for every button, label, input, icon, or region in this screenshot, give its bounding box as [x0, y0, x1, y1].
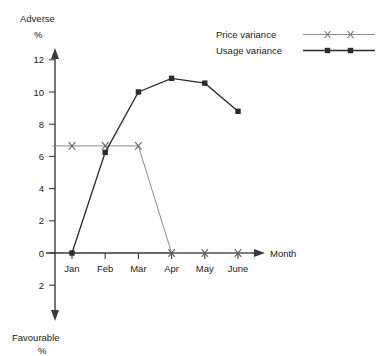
- data-point-marker: [169, 76, 174, 81]
- axis-bottom-unit-label: %: [38, 345, 47, 356]
- data-point-marker: [103, 150, 108, 155]
- x-tick-label-feb: Feb: [97, 263, 113, 274]
- legend-swatch-usage-variance: [303, 48, 375, 53]
- data-series-layer: [52, 76, 252, 257]
- y-tick-label: 10: [33, 87, 44, 98]
- series-line-usage-variance: [72, 78, 238, 253]
- y-tick-label: 8: [39, 119, 44, 130]
- variance-line-chart: 1210864202 JanFebMarAprMayJune Adverse %…: [0, 0, 385, 356]
- y-tick-label: 12: [33, 54, 44, 65]
- x-tick-label-apr: Apr: [164, 263, 179, 274]
- x-axis-ticks: JanFebMarAprMayJune: [64, 253, 248, 274]
- y-tick-label: 6: [39, 151, 44, 162]
- chart-legend: Price variance Usage variance: [216, 29, 375, 56]
- x-axis-title: Month: [270, 248, 296, 259]
- y-tick-label: 2: [39, 280, 44, 291]
- x-axis-right-arrow-icon: [254, 249, 265, 257]
- series-usage-variance: [69, 76, 240, 256]
- y-axis-ticks: 1210864202: [33, 54, 55, 290]
- x-tick-label-june: June: [228, 263, 249, 274]
- chart-canvas: 1210864202 JanFebMarAprMayJune Adverse %…: [0, 0, 385, 356]
- legend-item-label-usage-variance: Usage variance: [216, 45, 282, 56]
- y-tick-label: 4: [39, 183, 44, 194]
- legend-swatch-price-variance: [303, 31, 375, 38]
- x-tick-label-may: May: [196, 263, 214, 274]
- axis-top-unit-label: %: [34, 29, 43, 40]
- data-point-marker: [69, 250, 74, 255]
- axis-top-label: Adverse: [20, 13, 55, 24]
- legend-item-label-price-variance: Price variance: [216, 29, 276, 40]
- axis-group: [46, 48, 265, 321]
- y-axis-up-arrow-icon: [51, 48, 59, 59]
- axis-bottom-label: Favourable: [12, 332, 60, 343]
- x-tick-label-mar: Mar: [130, 263, 146, 274]
- data-point-marker: [202, 80, 207, 85]
- series-price-variance: [52, 142, 252, 257]
- data-point-marker: [235, 109, 240, 114]
- data-point-marker: [136, 89, 141, 94]
- y-tick-label: 0: [39, 248, 44, 259]
- y-tick-label: 2: [39, 215, 44, 226]
- series-line-price-variance: [52, 146, 252, 253]
- x-tick-label-jan: Jan: [64, 263, 79, 274]
- y-axis-down-arrow-icon: [51, 310, 59, 321]
